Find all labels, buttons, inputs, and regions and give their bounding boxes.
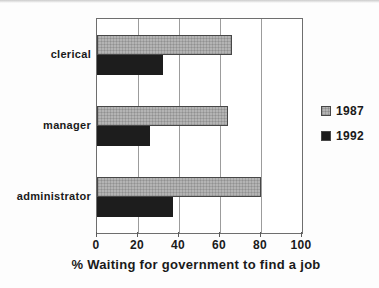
- bar-1987-administrator: [97, 177, 261, 197]
- bar-1987-clerical: [97, 35, 232, 55]
- x-tick-80: [260, 232, 261, 237]
- x-tick-label-100: 100: [291, 238, 312, 252]
- bar-1992-clerical: [97, 55, 163, 75]
- x-axis-title: % Waiting for government to find a job: [36, 257, 356, 272]
- bar-1992-administrator: [97, 197, 173, 217]
- x-tick-label-20: 20: [130, 238, 144, 252]
- legend-swatch-1992: [321, 131, 331, 141]
- x-tick-label-40: 40: [171, 238, 185, 252]
- plot-area: [96, 18, 303, 234]
- category-label-clerical: clerical: [0, 48, 91, 60]
- x-tick-20: [137, 232, 138, 237]
- legend-label-1992: 1992: [336, 129, 364, 143]
- x-tick-0: [96, 232, 97, 237]
- legend-label-1987: 1987: [336, 104, 364, 118]
- category-label-manager: manager: [0, 119, 91, 131]
- bar-1987-manager: [97, 106, 228, 126]
- legend-item-1987: 1987: [321, 104, 364, 117]
- category-label-administrator: administrator: [0, 190, 91, 202]
- scan-artifact: [0, 0, 379, 3]
- x-tick-60: [219, 232, 220, 237]
- chart-figure: clericalmanageradministrator 02040608010…: [0, 0, 379, 288]
- x-tick-label-60: 60: [212, 238, 226, 252]
- x-tick-100: [301, 232, 302, 237]
- legend-item-1992: 1992: [321, 129, 364, 142]
- legend-swatch-1987: [321, 106, 331, 116]
- x-tick-label-0: 0: [93, 238, 100, 252]
- x-tick-40: [178, 232, 179, 237]
- bar-1992-manager: [97, 126, 150, 146]
- x-tick-label-80: 80: [253, 238, 267, 252]
- gridline-80: [261, 19, 262, 233]
